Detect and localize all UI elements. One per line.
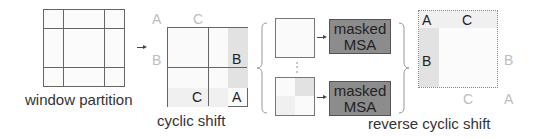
grid-line <box>104 10 105 86</box>
label-c: C <box>192 90 202 104</box>
right-brace-icon <box>397 22 411 114</box>
label-c-outside: C <box>193 12 203 26</box>
msa-line1: masked <box>330 21 390 37</box>
grid-line <box>63 10 64 86</box>
label-a-outside: A <box>152 12 161 26</box>
shaded-quadrant <box>276 96 295 115</box>
grid-line <box>44 67 124 68</box>
label-b: B <box>232 52 241 66</box>
arrow-icon <box>317 97 325 98</box>
window-box-bottom <box>275 77 315 116</box>
masked-msa-block: masked MSA <box>329 19 391 54</box>
label-a: A <box>422 13 431 27</box>
msa-line2: MSA <box>330 37 390 53</box>
label-c-outside: C <box>463 92 473 106</box>
arrow-icon <box>137 47 145 48</box>
reverse-shift-grid: A C B <box>418 10 498 88</box>
arrow-icon <box>317 37 325 38</box>
label-b-outside: B <box>504 53 513 67</box>
msa-line2: MSA <box>330 99 390 115</box>
window-box-top <box>275 18 315 58</box>
ellipsis: ⋮ <box>291 62 303 72</box>
left-brace-icon <box>255 22 269 114</box>
window-partition-grid <box>43 9 125 87</box>
label-b: B <box>422 54 431 68</box>
label-c: C <box>462 13 472 27</box>
label-a-outside: A <box>504 92 513 106</box>
shaded-quadrant <box>295 78 314 96</box>
grid-line <box>44 28 124 29</box>
label-b-outside: B <box>152 53 161 67</box>
masked-msa-block: masked MSA <box>329 81 391 116</box>
cyclic-shift-grid: B C A <box>167 27 248 107</box>
caption-window-partition: window partition <box>25 91 133 108</box>
caption-reverse-cyclic-shift: reverse cyclic shift <box>368 115 491 132</box>
label-a: A <box>232 90 241 104</box>
caption-cyclic-shift: cyclic shift <box>157 112 225 129</box>
grid-line <box>168 67 247 68</box>
msa-line1: masked <box>330 83 390 99</box>
